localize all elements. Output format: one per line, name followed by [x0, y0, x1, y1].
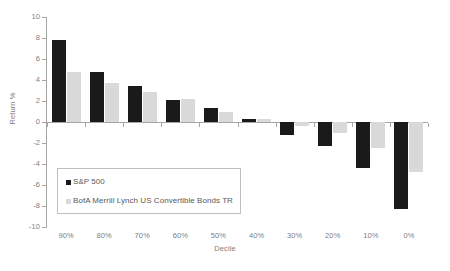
bar	[52, 40, 66, 122]
y-tick-label-text: 6	[18, 55, 40, 63]
y-tick-label: 6	[10, 55, 40, 63]
y-tick-label-text: -4	[18, 160, 40, 168]
x-tick-label: 30%	[275, 231, 315, 240]
legend-item-convertibles: BofA Merrill Lynch US Convertible Bonds …	[66, 196, 233, 206]
y-tick-label-text: -10	[18, 223, 40, 231]
y-tick-label: -8	[10, 202, 40, 210]
y-tick-label-text: 8	[18, 34, 40, 42]
legend-label-sp500: S&P 500	[73, 177, 105, 187]
bar	[105, 83, 119, 122]
bar-group	[390, 17, 428, 228]
bar	[219, 112, 233, 123]
x-tick-label: 90%	[46, 231, 86, 240]
bar	[280, 122, 294, 135]
bar	[409, 122, 423, 172]
y-tick-label-text: 2	[18, 97, 40, 105]
bar-group	[238, 17, 276, 228]
x-tick-mark	[428, 123, 429, 127]
bar	[143, 92, 157, 122]
y-tick-label-text: -6	[18, 181, 40, 189]
bar-group	[352, 17, 390, 228]
bar	[166, 100, 180, 122]
bar-group	[276, 17, 314, 228]
y-tick-label: -4	[10, 160, 40, 168]
x-tick-label: 0%	[389, 231, 429, 240]
bar	[371, 122, 385, 148]
x-tick-label: 20%	[313, 231, 353, 240]
bar	[257, 119, 271, 122]
y-tick-label: -10	[10, 223, 40, 231]
y-tick-label: 0	[10, 118, 40, 126]
y-tick-label-text: -2	[18, 139, 40, 147]
x-tick-label: 10%	[351, 231, 391, 240]
y-tick-label-text: 4	[18, 76, 40, 84]
bar	[394, 122, 408, 209]
x-tick-label: 80%	[84, 231, 124, 240]
x-axis-title: Decile	[0, 244, 450, 253]
y-axis-title: Return %	[8, 84, 17, 134]
legend-label-convertibles: BofA Merrill Lynch US Convertible Bonds …	[73, 196, 233, 206]
y-tick-label: 10	[10, 13, 40, 21]
bar	[295, 122, 309, 126]
y-tick-label: 2	[10, 97, 40, 105]
bar	[204, 108, 218, 122]
y-tick-label: 8	[10, 34, 40, 42]
bar	[356, 122, 370, 168]
x-tick-label: 50%	[198, 231, 238, 240]
bar	[318, 122, 332, 146]
x-tick-label: 40%	[237, 231, 277, 240]
bar-group	[314, 17, 352, 228]
bar-chart: Return % 1086420-2-4-6-8-10 90%80%70%60%…	[0, 0, 450, 271]
y-tick-label-text: -8	[18, 202, 40, 210]
legend-swatch-icon-sp500	[66, 180, 71, 185]
x-tick-label: 60%	[160, 231, 200, 240]
y-tick-label: 4	[10, 76, 40, 84]
x-tick-label: 70%	[122, 231, 162, 240]
bar	[333, 122, 347, 133]
y-tick-label: -6	[10, 181, 40, 189]
y-tick-label-text: 0	[18, 118, 40, 126]
bar	[181, 99, 195, 122]
legend-item-sp500: S&P 500	[66, 177, 105, 187]
bar	[67, 72, 81, 122]
y-tick-label: -2	[10, 139, 40, 147]
bar	[90, 72, 104, 122]
bar	[242, 119, 256, 122]
legend: S&P 500 BofA Merrill Lynch US Convertibl…	[57, 168, 241, 214]
bar	[128, 86, 142, 122]
legend-swatch-icon-convertibles	[66, 199, 71, 204]
y-tick-label-text: 10	[18, 13, 40, 21]
